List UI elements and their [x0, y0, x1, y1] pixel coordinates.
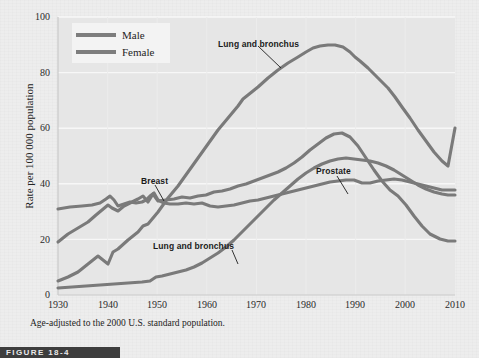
xtick-1970: 1970: [236, 299, 276, 310]
legend-label-female: Female: [122, 46, 154, 58]
figure-container: 100 80 60 40 20 0 1930 1940 1950 1960 19…: [0, 0, 479, 358]
annotation-breast: Breast: [141, 176, 168, 186]
xtick-1940: 1940: [88, 299, 128, 310]
legend: Male Female: [72, 23, 170, 63]
ytick-100: 100: [22, 11, 50, 22]
annotation-prostate: Prostate: [316, 166, 351, 176]
legend-item-female: Female: [76, 43, 166, 60]
y-axis-label: Rate per 100 000 population: [23, 61, 35, 231]
xtick-2000: 2000: [385, 299, 425, 310]
xtick-2010: 2010: [435, 299, 475, 310]
legend-label-male: Male: [122, 29, 145, 41]
figure-footnote: Age-adjusted to the 2000 U.S. standard p…: [30, 318, 225, 328]
legend-swatch-female: [76, 50, 116, 54]
xtick-1980: 1980: [286, 299, 326, 310]
legend-swatch-male: [76, 33, 116, 37]
xtick-1950: 1950: [137, 299, 177, 310]
legend-item-male: Male: [76, 26, 166, 43]
figure-tag: FIGURE 18-4: [0, 347, 120, 358]
xtick-1960: 1960: [187, 299, 227, 310]
annotation-lung-and-bronchus-male: Lung and bronchus: [218, 39, 299, 49]
annotation-lung-and-bronchus-female: Lung and bronchus: [153, 241, 234, 251]
ytick-20: 20: [22, 234, 50, 245]
xtick-1930: 1930: [38, 299, 78, 310]
xtick-1990: 1990: [335, 299, 375, 310]
